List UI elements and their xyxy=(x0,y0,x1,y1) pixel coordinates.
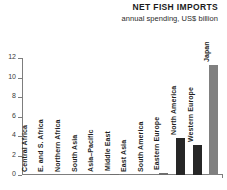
chart-subtitle: annual spending, US$ billion xyxy=(0,13,218,24)
x-axis-category-label: Western Europe xyxy=(187,87,194,142)
bar[interactable] xyxy=(176,138,185,175)
x-axis-category-label: East Asia xyxy=(120,140,127,172)
bar[interactable] xyxy=(193,145,202,175)
y-axis-tick-mark xyxy=(18,97,22,98)
x-axis-category-label: Middle East xyxy=(104,131,111,171)
y-axis-tick: 10 xyxy=(18,78,22,79)
x-axis-end-tick xyxy=(222,174,223,178)
bar[interactable] xyxy=(110,174,119,175)
y-axis-tick-mark xyxy=(18,175,22,176)
chart-header: NET FISH IMPORTS annual spending, US$ bi… xyxy=(0,2,218,24)
y-axis-tick-label: 4 xyxy=(12,131,16,138)
y-axis-tick-mark xyxy=(18,58,22,59)
x-axis-category-label: North America xyxy=(170,86,177,135)
y-axis-tick-label: 8 xyxy=(12,92,16,99)
x-axis-category-label: South America xyxy=(137,122,144,172)
y-axis-tick-label: 6 xyxy=(12,112,16,119)
bars-layer: Central AfricaE. and S. AfricaNorthern A… xyxy=(23,58,222,175)
y-axis-tick: 0 xyxy=(18,175,22,176)
bar[interactable] xyxy=(159,173,168,175)
net-fish-imports-chart: NET FISH IMPORTS annual spending, US$ bi… xyxy=(0,0,227,190)
page-title: NET FISH IMPORTS xyxy=(0,2,218,13)
y-axis-tick: 6 xyxy=(18,117,22,118)
x-axis-category-label: Northern Africa xyxy=(54,119,61,172)
x-axis-category-label: Asia–Pacific xyxy=(87,130,94,172)
y-axis-tick: 12 xyxy=(18,58,22,59)
bar-group: Western Europe xyxy=(189,58,206,175)
bar-group: Japan xyxy=(205,58,222,175)
y-axis-tick-label: 2 xyxy=(12,151,16,158)
bar[interactable] xyxy=(209,65,218,175)
x-axis-category-label: E. and S. Africa xyxy=(37,119,44,172)
x-axis-category-label: Central Africa xyxy=(21,125,28,172)
y-axis-tick-label: 12 xyxy=(8,53,16,60)
y-axis-tick-mark xyxy=(18,117,22,118)
y-axis-tick-mark xyxy=(18,78,22,79)
y-axis-tick-label: 10 xyxy=(8,73,16,80)
y-axis-tick-label: 0 xyxy=(12,170,16,177)
x-axis-category-label: Japan xyxy=(203,41,210,62)
x-axis-category-label: Eastern Europe xyxy=(153,117,160,170)
x-axis-category-label: South Asia xyxy=(71,135,78,172)
y-axis-tick: 8 xyxy=(18,97,22,98)
